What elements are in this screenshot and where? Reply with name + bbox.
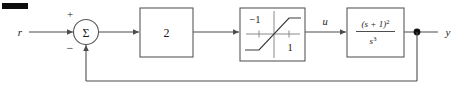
plant-denominator-exponent: 3 [373,35,376,42]
plant-numerator-exponent: 2 [386,18,389,25]
block-diagram-page: Σ + − 2 −1 1 (s + 1)2 s3 r u y [0,0,475,91]
sum-plus-sign: + [67,8,73,20]
output-label-y: y [445,26,451,38]
plant-numerator-base: (s + 1) [362,19,387,29]
arrowhead-feedback-into-sum [83,45,89,51]
arrowhead-into-plant [340,29,346,35]
control-block-diagram: Σ + − 2 −1 1 (s + 1)2 s3 r u y [0,0,475,91]
gain-block-label: 2 [164,26,170,40]
page-corner-mark [2,3,28,9]
intermediate-label-u: u [322,16,327,27]
saturation-lower-limit-label: −1 [249,14,260,25]
summing-junction-symbol: Σ [83,26,90,40]
arrowhead-into-saturation [233,29,239,35]
arrowhead-into-gain [133,29,139,35]
input-label-r: r [18,26,23,38]
plant-numerator: (s + 1)2 [362,18,390,29]
saturation-upper-limit-label: 1 [287,42,292,53]
arrowhead-into-sum [67,29,73,35]
sum-minus-sign: − [67,41,74,55]
plant-block [347,8,404,57]
